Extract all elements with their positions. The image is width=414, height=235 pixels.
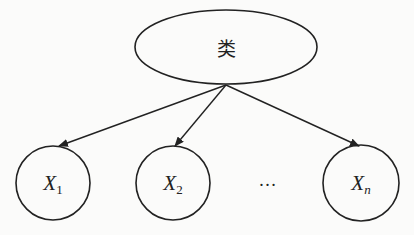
feature-node-xn-label: Xn: [351, 171, 370, 198]
ellipsis-more-features: …: [259, 170, 278, 191]
feature-node-x2-label: X2: [163, 171, 182, 198]
feature-xn-subscript: n: [364, 182, 371, 197]
feature-x2-name: X: [163, 171, 176, 195]
feature-node-x1-label: X1: [43, 171, 62, 198]
edge-class-to-xn: [226, 85, 359, 146]
class-node-label: 类: [217, 34, 236, 61]
feature-x1-subscript: 1: [56, 182, 63, 197]
diagram-canvas: 类 X1 X2 … Xn: [0, 0, 414, 235]
feature-x2-subscript: 2: [176, 182, 183, 197]
feature-x1-name: X: [43, 171, 56, 195]
diagram-graphics: [0, 0, 414, 235]
feature-xn-name: X: [351, 171, 364, 195]
